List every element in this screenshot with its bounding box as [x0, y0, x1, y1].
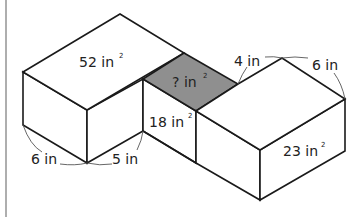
label-23-exp: 2: [321, 141, 325, 149]
dim-left-width: 5 in: [112, 151, 138, 167]
dim-right-top-right: 6 in: [312, 57, 338, 73]
label-52-exp: 2: [119, 52, 123, 60]
label-unknown-area: ? in: [172, 74, 197, 90]
dim-left-depth: 6 in: [31, 151, 57, 167]
leader-4in-top: [265, 57, 282, 58]
label-18-area: 18 in: [149, 114, 184, 130]
label-unknown-exp: 2: [203, 72, 207, 80]
leader-5in: [87, 163, 112, 165]
dim-right-top-left: 4 in: [234, 53, 260, 69]
label-18-exp: 2: [188, 112, 192, 120]
diagram-canvas: 52 in 2 ? in 2 18 in 2 23 in 2 6 in 5 in…: [0, 0, 364, 217]
leader-left-6in-bottom: [60, 163, 87, 165]
label-52-area: 52 in: [79, 54, 114, 70]
label-23-area: 23 in: [283, 143, 318, 159]
leader-right-6in-top: [282, 57, 308, 58]
